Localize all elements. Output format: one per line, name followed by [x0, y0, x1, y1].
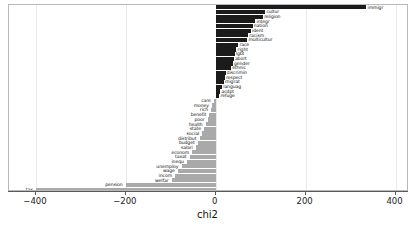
- bar-state: [204, 127, 216, 131]
- bar-social: [202, 131, 215, 135]
- bar-racism: [216, 33, 248, 37]
- bar-right: [216, 47, 237, 51]
- bar-rich: [211, 108, 215, 112]
- bar-poor: [208, 117, 216, 121]
- bar-econom: [192, 150, 215, 154]
- gridline-0: [36, 5, 37, 190]
- x-tick-2: [215, 191, 216, 195]
- bar-inequ: [187, 160, 216, 164]
- x-axis-line: [8, 191, 408, 192]
- gridline-3: [306, 5, 307, 190]
- x-tick-label-1: −200: [113, 196, 136, 206]
- plot-area: immigrculturreligionintegrnationidentrac…: [8, 4, 408, 191]
- bar-discrimin: [216, 71, 226, 75]
- bar-welfar: [172, 178, 216, 182]
- bar-pension: [126, 183, 216, 187]
- bar-gender: [216, 61, 233, 65]
- bar-cultur: [216, 10, 265, 14]
- bar-wage: [178, 169, 216, 173]
- x-tick-4: [395, 191, 396, 195]
- bar-salari: [196, 145, 216, 149]
- bar-lgbt: [216, 52, 235, 56]
- bar-label-immigr: immigr: [368, 5, 384, 10]
- bar-refuge: [216, 94, 220, 98]
- bar-care: [214, 99, 216, 103]
- x-tick-1: [125, 191, 126, 195]
- bar-integr: [216, 19, 256, 23]
- bar-taxat: [190, 155, 216, 159]
- x-tick-label-3: 200: [297, 196, 313, 206]
- bar-incom: [175, 174, 215, 178]
- x-tick-label-0: −400: [23, 196, 46, 206]
- x-axis-label: chi2: [0, 209, 415, 220]
- bar-benefit: [209, 113, 215, 117]
- bar-label-multicultur: multicultur: [248, 37, 272, 42]
- gridline-4: [396, 5, 397, 190]
- bar-distribut: [200, 136, 216, 140]
- bar-money: [212, 103, 216, 107]
- bar-label-welfar: welfar: [155, 178, 169, 183]
- bar-abort: [216, 57, 234, 61]
- bar-budget: [198, 141, 216, 145]
- bar-label-refuge: refuge: [221, 93, 235, 98]
- bar-health: [206, 122, 216, 126]
- bar-acdpt: [216, 89, 220, 93]
- x-tick-0: [35, 191, 36, 195]
- x-tick-label-2: 0: [212, 196, 217, 206]
- bar-unemploy: [182, 164, 216, 168]
- bar-nation: [216, 24, 253, 28]
- x-tick-3: [305, 191, 306, 195]
- chart-root: immigrculturreligionintegrnationidentrac…: [0, 0, 415, 229]
- bar-respect: [216, 75, 225, 79]
- x-tick-label-4: 400: [386, 196, 402, 206]
- bar-ident: [216, 29, 251, 33]
- gridline-1: [126, 5, 127, 190]
- bar-immigr: [216, 5, 367, 9]
- bar-race: [216, 43, 238, 47]
- bar-label-pension: pension: [105, 182, 122, 187]
